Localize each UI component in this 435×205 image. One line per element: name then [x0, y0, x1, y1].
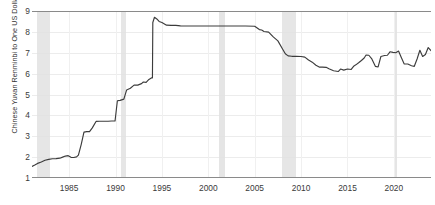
chart-container: Chinese Yuvan Renminbi to One US Dollar … [0, 0, 435, 205]
y-tick-label-9: 9 [4, 6, 30, 16]
x-tick-label-1995: 1995 [142, 183, 182, 193]
series-polyline [32, 17, 431, 166]
y-axis-tick-labels: 123456789 [0, 0, 30, 205]
y-tick-label-1: 1 [4, 173, 30, 183]
x-tick-label-2020: 2020 [374, 183, 414, 193]
y-tick-label-5: 5 [4, 90, 30, 100]
x-tick-label-2000: 2000 [188, 183, 228, 193]
x-tick-label-2010: 2010 [281, 183, 321, 193]
y-tick-label-2: 2 [4, 152, 30, 162]
y-tick-label-6: 6 [4, 69, 30, 79]
x-tick-label-1985: 1985 [49, 183, 89, 193]
exchange-rate-line-series [32, 11, 431, 178]
y-tick-label-7: 7 [4, 48, 30, 58]
y-tick-label-3: 3 [4, 131, 30, 141]
plot-area [32, 11, 431, 178]
y-tick-label-8: 8 [4, 27, 30, 37]
y-tick-label-4: 4 [4, 110, 30, 120]
x-tick-label-1990: 1990 [96, 183, 136, 193]
x-tick-label-2005: 2005 [235, 183, 275, 193]
x-tick-label-2015: 2015 [327, 183, 367, 193]
x-axis-line [32, 177, 431, 178]
plot-top-border [32, 11, 431, 12]
